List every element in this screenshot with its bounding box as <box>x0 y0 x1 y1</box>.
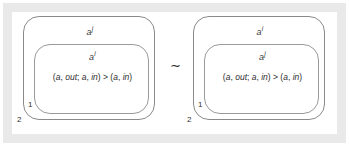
region-number-inner-right: 1 <box>198 100 202 109</box>
panels-container: aj ai (a, out; a, in) > (a, in) 1 2 ∼ ai <box>0 0 349 146</box>
formula-in1-left: in <box>91 72 98 82</box>
inner-region-box-right: aj (a, out; a, in) > (a, in) <box>204 44 319 114</box>
formula-left: (a, out; a, in) > (a, in) <box>35 72 150 82</box>
region-number-outer-right: 2 <box>187 115 191 124</box>
formula-relation-left: > <box>101 72 111 82</box>
outer-region-label-sup-left: j <box>92 25 94 32</box>
formula-out-right: out <box>235 72 247 82</box>
tilde-connector-icon: ∼ <box>163 58 187 74</box>
diagram-panel-left: aj ai (a, out; a, in) > (a, in) 1 2 <box>17 14 159 130</box>
formula-in1-right: in <box>261 72 268 82</box>
formula-close-paren2-left: ) <box>129 72 132 82</box>
inner-region-label-right: aj <box>205 50 320 62</box>
outer-region-label-left: aj <box>24 25 156 37</box>
outer-region-label-right: ai <box>194 25 326 37</box>
inner-region-label-sup-left: i <box>94 50 96 57</box>
outer-region-label-sup-right: i <box>262 25 264 32</box>
inner-region-box-left: ai (a, out; a, in) > (a, in) <box>34 44 149 114</box>
formula-close-paren2-right: ) <box>299 72 302 82</box>
region-number-inner-left: 1 <box>28 100 32 109</box>
inner-region-label-left: ai <box>35 50 150 62</box>
formula-right: (a, out; a, in) > (a, in) <box>205 72 320 82</box>
formula-relation-right: > <box>271 72 281 82</box>
formula-out-left: out <box>65 72 77 82</box>
figure-canvas: aj ai (a, out; a, in) > (a, in) 1 2 ∼ ai <box>0 0 349 146</box>
diagram-panel-right: ai aj (a, out; a, in) > (a, in) 1 2 <box>187 14 329 130</box>
inner-region-label-sup-right: j <box>264 50 266 57</box>
region-number-outer-left: 2 <box>17 115 21 124</box>
